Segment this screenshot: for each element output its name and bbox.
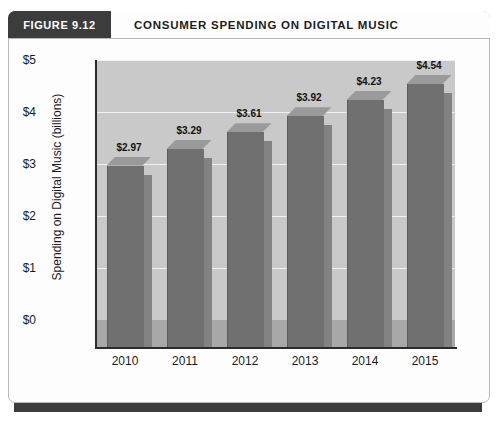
bar-front-face	[227, 132, 264, 347]
figure-bottom-rule	[14, 403, 482, 412]
y-axis-tick-label: $2	[0, 209, 36, 223]
bar	[407, 84, 443, 347]
header-divider	[8, 38, 490, 39]
chart-area: Spending on Digital Music (billions) $0$…	[14, 44, 482, 396]
bar-value-label: $3.92	[274, 92, 344, 103]
bar	[167, 149, 203, 347]
y-axis-tick-label: $1	[0, 261, 36, 275]
x-axis-line	[95, 347, 457, 349]
bar-side-face	[143, 175, 152, 347]
x-axis-tick-label: 2010	[95, 354, 155, 368]
bar-front-face	[167, 149, 204, 347]
bar-value-label: $3.61	[214, 108, 284, 119]
bar-top-face	[287, 107, 332, 116]
bar-side-face	[323, 125, 332, 347]
bar-front-face	[347, 100, 384, 347]
bar	[287, 116, 323, 347]
gridline	[95, 164, 455, 165]
bar	[107, 166, 143, 347]
bar-value-label: $4.54	[394, 60, 464, 71]
figure-number-label: FIGURE 9.12	[23, 19, 96, 31]
bar-side-face	[443, 93, 452, 347]
bar-side-face	[263, 141, 272, 347]
x-axis-tick-label: 2012	[215, 354, 275, 368]
bar-top-face	[227, 123, 272, 132]
bar-front-face	[107, 166, 144, 347]
bar-value-label: $4.23	[334, 76, 404, 87]
bar-top-face	[407, 75, 452, 84]
y-axis-tick-label: $4	[0, 105, 36, 119]
y-axis-title: Spending on Digital Music (billions)	[50, 52, 64, 322]
bar-value-label: $2.97	[94, 142, 164, 153]
bar-side-face	[203, 158, 212, 347]
x-axis-tick-label: 2014	[335, 354, 395, 368]
bar-top-face	[167, 140, 212, 149]
bar-value-label: $3.29	[154, 125, 224, 136]
bar-top-face	[347, 91, 392, 100]
bar-side-face	[383, 109, 392, 347]
y-axis-line	[95, 60, 97, 349]
bar-front-face	[287, 116, 324, 347]
x-axis-tick-label: 2013	[275, 354, 335, 368]
figure-title-text: CONSUMER SPENDING ON DIGITAL MUSIC	[134, 19, 399, 31]
y-axis-tick-label: $5	[0, 53, 36, 67]
bar-front-face	[407, 84, 444, 347]
figure-number-tab: FIGURE 9.12	[8, 11, 111, 38]
y-axis-tick-label: $3	[0, 157, 36, 171]
x-axis-tick-label: 2011	[155, 354, 215, 368]
y-axis-tick-label: $0	[0, 313, 36, 327]
x-axis-tick-label: 2015	[395, 354, 455, 368]
bar	[227, 132, 263, 347]
figure-header: FIGURE 9.12 CONSUMER SPENDING ON DIGITAL…	[8, 11, 490, 38]
bar	[347, 100, 383, 347]
figure-title-bar: CONSUMER SPENDING ON DIGITAL MUSIC	[111, 11, 490, 38]
